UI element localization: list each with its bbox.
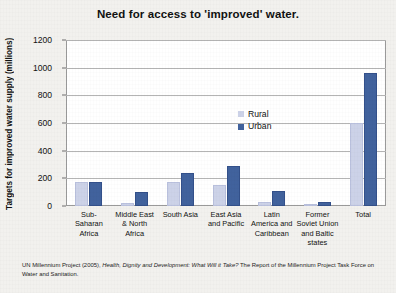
y-axis-tick-label: 200 bbox=[12, 173, 52, 183]
bar-group bbox=[295, 40, 341, 206]
x-axis-labels: Sub-SaharanAfricaMiddle East& NorthAfric… bbox=[66, 210, 386, 247]
bar-rural bbox=[121, 203, 134, 206]
bar-urban bbox=[135, 192, 148, 206]
chart-title: Need for access to 'improved' water. bbox=[0, 8, 396, 20]
plot-wrapper: 020040060080010001200 Rural Urban bbox=[66, 40, 386, 206]
legend-swatch-rural bbox=[238, 111, 244, 117]
x-axis-label: East Asiaand Pacific bbox=[203, 210, 249, 247]
bar-group bbox=[66, 40, 112, 206]
bar-urban bbox=[272, 191, 285, 206]
bar-rural bbox=[350, 123, 363, 206]
bar-group bbox=[340, 40, 386, 206]
x-axis-label: Middle East& NorthAfrica bbox=[112, 210, 158, 247]
chart-figure: Need for access to 'improved' water. Tar… bbox=[0, 0, 396, 293]
legend-item-urban: Urban bbox=[238, 120, 271, 132]
bar-rural bbox=[213, 185, 226, 206]
y-axis-tick-label: 1200 bbox=[12, 35, 52, 45]
y-axis-tick-label: 0 bbox=[12, 201, 52, 211]
bar-rural bbox=[258, 202, 271, 206]
bar-groups bbox=[66, 40, 386, 206]
x-axis-label: Sub-SaharanAfrica bbox=[66, 210, 112, 247]
bar-urban bbox=[318, 202, 331, 206]
source-note: UN Millennium Project (2005), Health, Di… bbox=[22, 261, 382, 279]
x-axis-label: Total bbox=[340, 210, 386, 247]
y-axis-tick-label: 400 bbox=[12, 146, 52, 156]
legend-label-rural: Rural bbox=[248, 108, 269, 120]
x-axis-label: FormerSoviet Unionand Balticstates bbox=[295, 210, 341, 247]
bar-urban bbox=[181, 173, 194, 206]
y-axis-tick-label: 1000 bbox=[12, 63, 52, 73]
x-axis-label: LatinAmerica andCaribbean bbox=[249, 210, 295, 247]
legend-swatch-urban bbox=[238, 124, 244, 130]
bar-urban bbox=[227, 166, 240, 206]
bar-group bbox=[157, 40, 203, 206]
x-axis-label: South Asia bbox=[157, 210, 203, 247]
bar-urban bbox=[364, 73, 377, 206]
y-axis-tick-label: 600 bbox=[12, 118, 52, 128]
legend-label-urban: Urban bbox=[248, 120, 271, 132]
y-axis-tick-label: 800 bbox=[12, 90, 52, 100]
chart-legend: Rural Urban bbox=[238, 108, 271, 133]
legend-item-rural: Rural bbox=[238, 108, 271, 120]
bar-urban bbox=[89, 182, 102, 206]
bar-group bbox=[112, 40, 158, 206]
bar-rural bbox=[167, 182, 180, 206]
bar-rural bbox=[304, 204, 317, 206]
bar-rural bbox=[75, 182, 88, 206]
